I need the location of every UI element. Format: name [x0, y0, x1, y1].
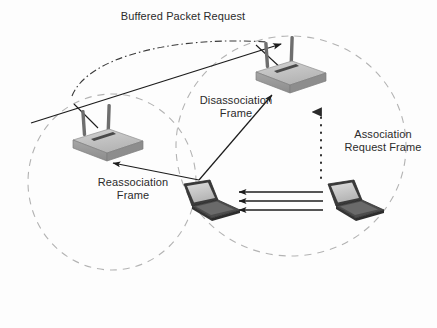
association-request-frame-label: Association Request Frame	[331, 128, 435, 154]
reassociation-frame-label: Reassociation Frame	[78, 176, 188, 202]
left-access-point[interactable]	[73, 104, 143, 161]
buffered-packet-request-label: Buffered Packet Request	[88, 10, 278, 23]
top-right-access-point[interactable]	[256, 36, 326, 93]
roaming-client-laptop[interactable]	[184, 180, 240, 221]
inter-laptop-data-flows	[239, 192, 323, 210]
associating-client-laptop[interactable]	[328, 180, 384, 221]
network-diagram	[0, 0, 437, 328]
disassociation-frame-label: Disassociation Frame	[186, 94, 286, 120]
diagram-canvas: Buffered Packet Request Disassociation F…	[0, 0, 437, 328]
buffered-packet-request-arc	[72, 41, 268, 96]
left-ap-uplink	[74, 104, 98, 128]
